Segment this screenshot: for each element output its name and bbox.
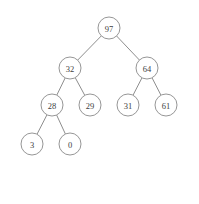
binary-tree-diagram: 9732642829316130 <box>0 0 199 162</box>
tree-edge <box>133 78 142 95</box>
tree-node: 0 <box>59 133 81 155</box>
tree-edge <box>37 115 47 134</box>
tree-edge <box>75 78 85 96</box>
tree-node-label: 64 <box>143 64 152 74</box>
tree-edge <box>57 78 65 95</box>
tree-node: 29 <box>79 94 101 116</box>
tree-node-label: 0 <box>68 140 72 150</box>
tree-node: 3 <box>21 133 43 155</box>
tree-edge <box>57 115 66 134</box>
tree-node-label: 61 <box>162 101 171 111</box>
array-representation: a [0][1][2][3][4][5][6][7][8] 9732642829… <box>0 162 199 204</box>
tree-node-label: 32 <box>66 64 75 74</box>
tree-edge <box>117 36 140 60</box>
tree-node: 32 <box>59 57 81 79</box>
binary-tree-array-figure: 9732642829316130 a [0][1][2][3][4][5][6]… <box>0 0 199 204</box>
tree-edge <box>152 78 161 95</box>
tree-node: 97 <box>98 17 120 39</box>
tree-node: 28 <box>41 94 63 116</box>
tree-edge <box>78 36 102 60</box>
tree-node-label: 97 <box>105 24 114 34</box>
tree-edge-layer <box>37 36 161 134</box>
tree-node-label: 28 <box>48 101 57 111</box>
tree-node: 64 <box>136 57 158 79</box>
tree-node: 31 <box>117 94 139 116</box>
tree-node: 61 <box>155 94 177 116</box>
tree-node-label: 29 <box>86 101 95 111</box>
tree-node-label: 31 <box>124 101 133 111</box>
tree-node-label: 3 <box>30 140 34 150</box>
